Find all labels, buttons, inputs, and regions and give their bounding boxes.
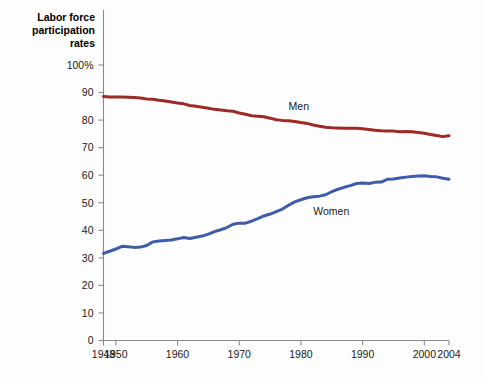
x-tick-label: 1970 <box>228 348 252 360</box>
x-tick-label: 2004 <box>437 348 461 360</box>
series-line-men <box>104 96 450 136</box>
x-tick-label: 2000 <box>413 348 437 360</box>
y-tick-label: 60 <box>82 169 94 181</box>
line-chart: Labor force participation rates 01020304… <box>0 0 484 378</box>
chart-title: Labor force participation rates <box>32 11 95 49</box>
y-tick-label: 10 <box>82 307 94 319</box>
chart-axes <box>104 10 450 341</box>
chart-title-line-1: Labor force <box>37 11 95 23</box>
y-tick-label: 30 <box>82 252 94 264</box>
x-tick-label: 1980 <box>289 348 313 360</box>
y-tick-label: 80 <box>82 114 94 126</box>
x-tick-label: 1950 <box>104 348 128 360</box>
chart-figure: Labor force participation rates 01020304… <box>0 0 484 378</box>
y-axis-ticks: 0102030405060708090100% <box>67 59 104 347</box>
y-tick-label: 100% <box>67 59 94 71</box>
y-tick-label: 40 <box>82 224 94 236</box>
chart-series <box>104 96 450 253</box>
y-tick-label: 90 <box>82 86 94 98</box>
y-tick-label: 20 <box>82 279 94 291</box>
x-axis-ticks: 19481950196019701980199020002004 <box>92 341 461 360</box>
chart-title-line-2: participation <box>32 24 95 36</box>
series-label-women: Women <box>313 205 349 217</box>
y-tick-label: 0 <box>88 334 94 346</box>
series-label-men: Men <box>289 100 310 112</box>
x-tick-label: 1960 <box>166 348 190 360</box>
y-tick-label: 50 <box>82 197 94 209</box>
y-tick-label: 70 <box>82 141 94 153</box>
x-tick-label: 1990 <box>351 348 375 360</box>
series-line-women <box>104 176 450 254</box>
chart-title-line-3: rates <box>70 37 95 49</box>
